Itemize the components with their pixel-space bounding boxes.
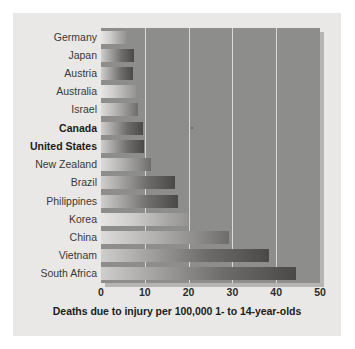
y-axis-category-labels: GermanyJapanAustriaAustraliaIsraelCanada… — [8, 28, 97, 283]
x-tick-label-50: 50 — [314, 286, 326, 298]
bar-korea — [101, 213, 188, 226]
y-axis-label-brazil: Brazil — [8, 174, 97, 191]
y-axis-label-australia: Australia — [8, 83, 97, 100]
axis-caption: Deaths due to injury per 100,000 1- to 1… — [18, 305, 336, 317]
bar-row — [101, 65, 320, 82]
bar-canada — [101, 122, 143, 135]
bar-new-zealand — [101, 158, 151, 171]
bar-row — [101, 211, 320, 228]
x-tick-label-40: 40 — [270, 286, 282, 298]
bar-australia — [101, 85, 136, 98]
figure: GermanyJapanAustriaAustraliaIsraelCanada… — [0, 0, 355, 349]
x-axis-tick-labels: 01020304050 — [101, 286, 320, 302]
print-speck — [191, 127, 193, 129]
bar-germany — [101, 31, 126, 44]
plot-area — [101, 28, 320, 283]
y-axis-label-korea: Korea — [8, 211, 97, 228]
x-tick-label-10: 10 — [139, 286, 151, 298]
bar-row — [101, 120, 320, 137]
y-axis-label-united-states: United States — [8, 138, 97, 155]
y-axis-label-china: China — [8, 229, 97, 246]
y-axis-label-canada: Canada — [8, 120, 97, 137]
y-axis-label-germany: Germany — [8, 29, 97, 46]
bar-row — [101, 83, 320, 100]
bar-japan — [101, 49, 134, 62]
bar-brazil — [101, 176, 175, 189]
bar-row — [101, 101, 320, 118]
y-axis-label-vietnam: Vietnam — [8, 247, 97, 264]
x-tick-label-30: 30 — [227, 286, 239, 298]
bar-austria — [101, 67, 133, 80]
bar-china — [101, 231, 229, 244]
y-axis-label-south-africa: South Africa — [8, 265, 97, 282]
bar-vietnam — [101, 249, 269, 262]
bar-row — [101, 156, 320, 173]
y-axis-label-austria: Austria — [8, 65, 97, 82]
bar-row — [101, 174, 320, 191]
y-axis-label-philippines: Philippines — [8, 193, 97, 210]
x-tick-label-20: 20 — [183, 286, 195, 298]
x-tick-label-0: 0 — [98, 286, 104, 298]
bar-row — [101, 265, 320, 282]
bar-row — [101, 193, 320, 210]
bar-row — [101, 247, 320, 264]
bar-row — [101, 229, 320, 246]
bar-united-states — [101, 140, 144, 153]
y-axis-label-japan: Japan — [8, 47, 97, 64]
bar-philippines — [101, 195, 178, 208]
bar-row — [101, 47, 320, 64]
bar-south-africa — [101, 267, 296, 280]
y-axis-label-israel: Israel — [8, 101, 97, 118]
y-axis-label-new-zealand: New Zealand — [8, 156, 97, 173]
bar-row — [101, 29, 320, 46]
bar-israel — [101, 103, 138, 116]
bar-row — [101, 138, 320, 155]
